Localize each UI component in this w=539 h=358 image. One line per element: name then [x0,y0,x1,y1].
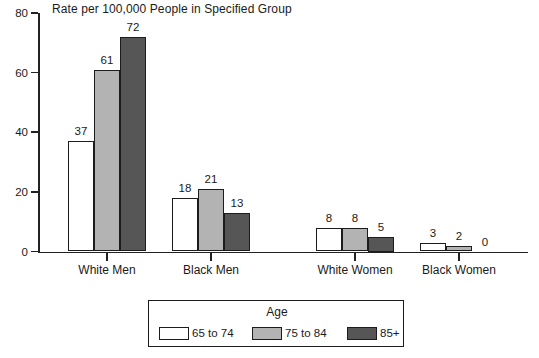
bar [198,189,224,252]
y-tick-mark [31,191,38,193]
legend-item: 85+ [347,325,400,341]
bar-value-label: 2 [456,230,462,242]
y-tick-mark [31,12,38,14]
x-group-label: White Men [78,263,135,277]
bar-value-label: 72 [127,21,140,33]
legend-swatch [159,327,189,340]
y-axis-line [38,13,40,253]
bar [446,246,472,252]
bar [120,37,146,252]
legend-swatch [347,327,377,340]
bar [420,243,446,252]
y-tick-mark [31,72,38,74]
legend-title: Age [149,305,405,319]
bar-value-label: 61 [101,54,114,66]
bar-value-label: 37 [75,125,88,137]
legend-label: 65 to 74 [192,327,234,339]
x-group-label: Black Women [422,263,496,277]
y-tick-mark [31,251,38,253]
y-tick-label: 60 [2,67,28,79]
bar [94,70,120,252]
bar-value-label: 21 [205,173,218,185]
bar [368,237,394,252]
bar-chart: Rate per 100,000 People in Specified Gro… [0,0,539,358]
y-tick-mark [31,131,38,133]
x-tick-mark [354,253,356,261]
legend: Age 65 to 7475 to 8485+ [148,300,404,347]
y-tick-label: 80 [2,7,28,19]
bar [172,198,198,252]
chart-title: Rate per 100,000 People in Specified Gro… [52,2,292,16]
bar [68,141,94,251]
legend-label: 75 to 84 [285,327,327,339]
bar [342,228,368,252]
bar-value-label: 8 [326,212,332,224]
bar-value-label: 13 [231,197,244,209]
bar [316,228,342,252]
bar-value-label: 3 [430,227,436,239]
x-tick-mark [106,253,108,261]
x-group-label: Black Men [183,263,239,277]
bar-value-label: 8 [352,212,358,224]
legend-label: 85+ [380,327,400,339]
legend-item: 65 to 74 [159,325,234,341]
x-tick-mark [458,253,460,261]
bar-value-label: 0 [482,236,488,248]
bar-value-label: 18 [179,182,192,194]
y-tick-label: 20 [2,186,28,198]
x-tick-mark [210,253,212,261]
y-tick-label: 40 [2,126,28,138]
y-tick-label: 0 [2,246,28,258]
x-group-label: White Women [317,263,392,277]
bar-value-label: 5 [378,221,384,233]
x-axis-line [38,252,528,254]
bar [224,213,250,252]
legend-items: 65 to 7475 to 8485+ [149,325,405,345]
legend-swatch [252,327,282,340]
legend-item: 75 to 84 [252,325,327,341]
